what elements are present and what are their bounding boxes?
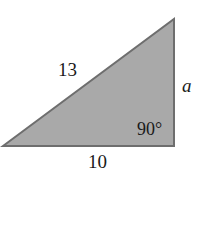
- vertical-side-label: a: [182, 76, 192, 95]
- right-angle-label: 90°: [137, 120, 162, 138]
- base-label: 10: [88, 152, 107, 171]
- hypotenuse-label: 13: [58, 60, 77, 79]
